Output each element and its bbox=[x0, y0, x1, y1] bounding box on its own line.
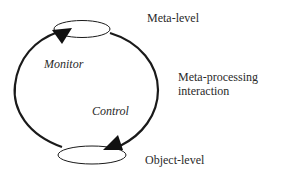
control-arrowhead-icon bbox=[103, 135, 123, 150]
monitor-label: Monitor bbox=[44, 57, 83, 71]
control-arrow-path bbox=[110, 33, 158, 146]
annotation-line1: Meta-processing bbox=[178, 70, 258, 84]
diagram-canvas bbox=[0, 0, 287, 173]
monitor-arrowhead-icon bbox=[52, 28, 72, 44]
monitor-arrow-path bbox=[15, 32, 62, 147]
object-level-label: Object-level bbox=[145, 153, 204, 167]
meta-level-label: Meta-level bbox=[147, 11, 199, 25]
control-label: Control bbox=[92, 104, 129, 118]
annotation-line2: interaction bbox=[178, 84, 229, 98]
